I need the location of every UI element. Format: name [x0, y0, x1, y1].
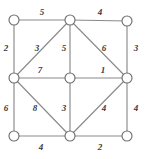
edge-weight-label: 1 — [101, 66, 106, 75]
graph-vertex-bottom-right — [122, 131, 132, 141]
edge-weight-label: 7 — [38, 66, 43, 75]
edge-weight-label: 2 — [4, 44, 9, 53]
edge-weight-label: 4 — [102, 104, 107, 113]
edge-weight-label: 2 — [98, 143, 103, 152]
graph-vertex-center — [65, 73, 75, 83]
graph-vertex-top-right — [122, 16, 132, 26]
graph-vertex-left-middle — [9, 73, 19, 83]
edge-weight-label: 4 — [39, 143, 44, 152]
graph-edge — [70, 78, 127, 136]
edge-weight-label: 6 — [4, 104, 9, 113]
edge-weight-label: 3 — [35, 44, 40, 53]
edge-weight-label: 3 — [134, 44, 139, 53]
graph-vertex-top-left — [9, 15, 19, 25]
graph-vertex-bottom-middle — [65, 131, 75, 141]
graph-vertex-top-middle — [65, 15, 75, 25]
edge-weight-label: 5 — [62, 44, 67, 53]
edge-weight-label: 3 — [62, 104, 67, 113]
weighted-graph-figure: 5423356716834442 — [0, 0, 145, 159]
graph-vertex-right-middle — [122, 73, 132, 83]
edge-weight-label: 4 — [134, 104, 139, 113]
graph-vertex-bottom-left — [9, 131, 19, 141]
graph-edge — [70, 20, 127, 78]
edge-weight-label: 6 — [102, 44, 107, 53]
graph-canvas — [0, 0, 145, 159]
edge-weight-label: 5 — [40, 8, 45, 17]
graph-edge — [70, 20, 127, 21]
edge-weight-label: 4 — [98, 8, 103, 17]
edge-weight-label: 8 — [33, 104, 38, 113]
